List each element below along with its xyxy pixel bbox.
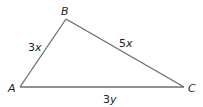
side-label-ac: 3y [103, 93, 117, 106]
vertex-label-b: B [61, 5, 69, 18]
vertex-label-a: A [7, 82, 16, 95]
triangle-diagram: B A C 3x 5x 3y [0, 0, 203, 107]
side-label-bc: 5x [119, 37, 133, 50]
vertex-label-c: C [188, 82, 196, 95]
side-label-ab: 3x [28, 41, 42, 54]
side-ab [20, 19, 66, 87]
side-bc [66, 19, 184, 87]
